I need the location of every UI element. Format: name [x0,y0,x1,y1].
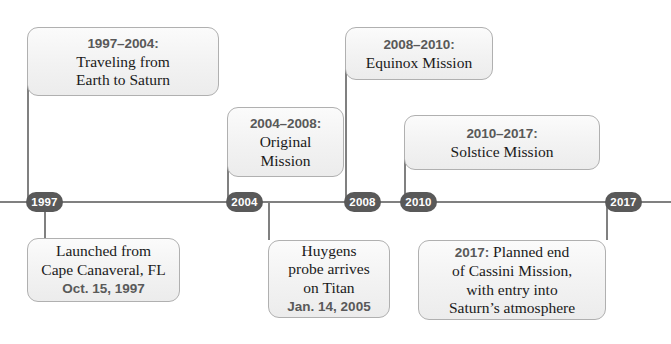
year-marker-label: 2010 [405,196,431,208]
event-box-mission-end: 2017: Planned end of Cassini Mission, wi… [418,240,606,320]
year-marker-label: 1997 [31,196,57,208]
event-line: Launched from [34,242,173,261]
milestone-box-solstice-mission: 2010–2017: Solstice Mission [404,115,600,170]
event-line: on Titan [275,279,383,298]
milestone-header: 2004–2008: [234,114,337,133]
year-marker-2004[interactable]: 2004 [226,192,263,212]
milestone-line: Original [234,133,337,152]
event-line: with entry into [425,281,599,300]
event-line: Saturn’s atmosphere [425,299,599,318]
milestone-box-travel: 1997–2004: Traveling from Earth to Satur… [27,27,219,96]
year-marker-2017[interactable]: 2017 [605,192,642,212]
event-line: of Cassini Mission, [425,262,599,281]
event-line: probe arrives [275,260,383,279]
year-marker-label: 2017 [610,196,636,208]
milestone-box-original-mission: 2004–2008: Original Mission [227,107,344,177]
milestone-line: Earth to Saturn [34,71,212,90]
event-line: Huygens [275,242,383,261]
milestone-line: Equinox Mission [352,54,486,73]
timeline-diagram: 1997–2004: Traveling from Earth to Satur… [0,0,671,344]
event-inline-year: 2017: [455,245,490,260]
year-marker-1997[interactable]: 1997 [26,192,63,212]
milestone-header: 2010–2017: [411,124,593,143]
year-marker-label: 2008 [349,196,375,208]
milestone-line: Mission [234,152,337,171]
event-line-with-year: 2017: Planned end [425,243,599,263]
year-marker-2010[interactable]: 2010 [400,192,437,212]
event-date: Jan. 14, 2005 [275,297,383,316]
year-marker-2008[interactable]: 2008 [344,192,381,212]
event-box-huygens: Huygens probe arrives on Titan Jan. 14, … [268,240,390,318]
milestone-header: 1997–2004: [34,34,212,53]
event-line: Cape Canaveral, FL [34,261,173,280]
event-inline-rest: Planned end [489,243,569,260]
timeline-axis [0,201,671,203]
milestone-line: Solstice Mission [411,143,593,162]
milestone-box-equinox-mission: 2008–2010: Equinox Mission [345,27,493,80]
event-date: Oct. 15, 1997 [34,279,173,298]
year-marker-label: 2004 [231,196,257,208]
connector-2004-down [268,202,270,240]
milestone-header: 2008–2010: [352,35,486,54]
milestone-line: Traveling from [34,53,212,72]
event-box-launch: Launched from Cape Canaveral, FL Oct. 15… [27,238,180,302]
